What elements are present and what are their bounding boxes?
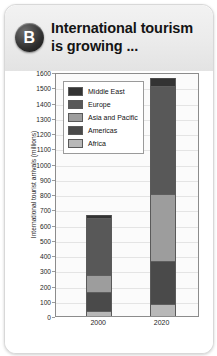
y-tick-label: 0 <box>19 314 51 321</box>
gridline <box>56 272 198 273</box>
y-tick-mark <box>52 317 55 318</box>
card-header: B International tourism is growing ... <box>5 5 213 72</box>
legend-label: Middle East <box>88 88 125 95</box>
y-tick-mark <box>52 271 55 272</box>
y-tick-label: 500 <box>19 237 51 244</box>
gridline <box>56 166 198 167</box>
gridline <box>56 181 198 182</box>
chart-area: International tourist arrivals (millions… <box>5 71 213 353</box>
y-tick-mark <box>52 134 55 135</box>
x-tick-label: 2020 <box>154 319 170 326</box>
legend-item: Asia and Pacific <box>68 112 138 123</box>
title-line-2: is growing ... <box>51 38 138 54</box>
legend-label: Africa <box>88 140 106 147</box>
gridline <box>56 303 198 304</box>
title-line-1: International tourism <box>51 20 193 36</box>
bar-segment-europe <box>151 86 175 194</box>
bar-segment-asia-and-pacific <box>151 194 175 261</box>
bar-segment-europe <box>87 218 111 274</box>
gridline <box>56 227 198 228</box>
y-tick-label: 700 <box>19 207 51 214</box>
legend-swatch <box>68 87 83 96</box>
gridline <box>56 242 198 243</box>
legend-item: Africa <box>68 138 138 149</box>
gridline <box>56 196 198 197</box>
y-tick-label: 900 <box>19 176 51 183</box>
legend-item: Americas <box>68 125 138 136</box>
bar-segment-middle-east <box>151 78 175 86</box>
y-tick-label: 100 <box>19 298 51 305</box>
gridline <box>56 211 198 212</box>
y-tick-mark <box>52 195 55 196</box>
y-axis-ticks: 0100200300400500600700800900100011001200… <box>19 71 51 353</box>
bar-segment-asia-and-pacific <box>87 275 111 292</box>
tourism-chart-card: B International tourism is growing ... I… <box>4 4 214 354</box>
y-tick-label: 800 <box>19 192 51 199</box>
y-tick-mark <box>52 210 55 211</box>
y-tick-mark <box>52 241 55 242</box>
y-tick-label: 1500 <box>19 85 51 92</box>
bar-segment-americas <box>151 261 175 304</box>
bar-2020 <box>150 78 176 316</box>
chart-legend: Middle EastEuropeAsia and PacificAmerica… <box>63 81 144 154</box>
y-tick-mark <box>52 302 55 303</box>
y-tick-mark <box>52 149 55 150</box>
y-tick-mark <box>52 256 55 257</box>
legend-swatch <box>68 126 83 135</box>
y-tick-label: 1300 <box>19 115 51 122</box>
legend-label: Europe <box>88 101 111 108</box>
y-tick-mark <box>52 226 55 227</box>
legend-swatch <box>68 139 83 148</box>
y-tick-mark <box>52 73 55 74</box>
y-tick-mark <box>52 88 55 89</box>
y-tick-mark <box>52 119 55 120</box>
gridline <box>56 257 198 258</box>
legend-label: Americas <box>88 127 117 134</box>
y-tick-mark <box>52 165 55 166</box>
legend-item: Middle East <box>68 86 138 97</box>
legend-item: Europe <box>68 99 138 110</box>
legend-swatch <box>68 113 83 122</box>
section-badge: B <box>15 23 44 52</box>
y-tick-mark <box>52 287 55 288</box>
legend-swatch <box>68 100 83 109</box>
bar-segment-africa <box>87 311 111 316</box>
y-tick-label: 1200 <box>19 131 51 138</box>
x-axis-ticks: 20002020 <box>55 319 199 335</box>
y-tick-label: 300 <box>19 268 51 275</box>
page-title: International tourism is growing ... <box>51 19 207 55</box>
bar-segment-americas <box>87 292 111 312</box>
y-tick-label: 1000 <box>19 161 51 168</box>
y-tick-label: 1400 <box>19 100 51 107</box>
y-tick-label: 200 <box>19 283 51 290</box>
y-tick-mark <box>52 180 55 181</box>
x-tick-label: 2000 <box>90 319 106 326</box>
bar-segment-africa <box>151 304 175 316</box>
y-tick-mark <box>52 104 55 105</box>
y-tick-label: 400 <box>19 253 51 260</box>
legend-label: Asia and Pacific <box>88 114 138 121</box>
bar-2000 <box>86 215 112 316</box>
y-tick-label: 1100 <box>19 146 51 153</box>
y-tick-label: 1600 <box>19 70 51 77</box>
gridline <box>56 288 198 289</box>
y-tick-label: 600 <box>19 222 51 229</box>
